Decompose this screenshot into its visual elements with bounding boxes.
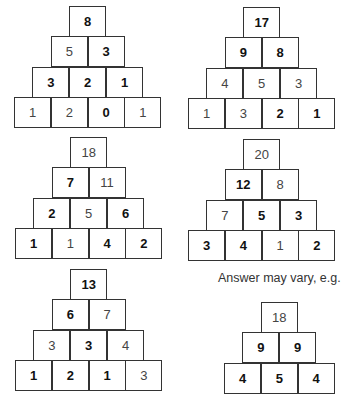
pyramid-cell: 12: [225, 169, 262, 200]
pyramid-cell: 13: [70, 269, 107, 300]
pyramid-cell: 1: [298, 98, 335, 129]
pyramid-cell: 7: [89, 299, 126, 330]
pyramid-cell: 6: [52, 299, 89, 330]
pyramid-cell: 7: [206, 200, 243, 231]
pyramid-cell: 4: [107, 330, 144, 361]
pyramid-cell: 1: [89, 360, 126, 391]
pyramid-cell: 2: [125, 228, 162, 259]
pyramid-cell: 18: [261, 302, 298, 333]
pyramid-cell: 17: [243, 7, 280, 38]
pyramid-cell: 6: [107, 198, 144, 229]
pyramid-cell: 5: [261, 363, 298, 394]
pyramid-cell: 3: [280, 68, 317, 99]
pyramid-cell: 5: [51, 36, 88, 67]
pyramid-cell: 0: [88, 97, 125, 128]
pyramid-cell: 2: [33, 198, 70, 229]
pyramid-cell: 2: [52, 360, 89, 391]
pyramid-cell: 18: [70, 137, 107, 168]
pyramid-cell: 2: [69, 67, 106, 98]
pyramid-cell: 2: [298, 230, 335, 261]
pyramid-cell: 9: [225, 37, 262, 68]
pyramid-cell: 1: [52, 228, 89, 259]
pyramid-cell: 11: [89, 167, 126, 198]
pyramid-cell: 4: [225, 230, 262, 261]
pyramid-cell: 3: [70, 330, 107, 361]
pyramid-cell: 5: [243, 200, 280, 231]
pyramid-cell: 3: [33, 330, 70, 361]
pyramid-cell: 3: [88, 36, 125, 67]
pyramid-cell: 1: [124, 97, 161, 128]
pyramid-cell: 1: [188, 98, 225, 129]
pyramid-cell: 4: [224, 363, 261, 394]
pyramid-cell: 3: [125, 360, 162, 391]
pyramid-cell: 5: [70, 198, 107, 229]
pyramid-cell: 2: [262, 98, 299, 129]
pyramid-cell: 1: [15, 360, 52, 391]
pyramid-cell: 3: [32, 67, 69, 98]
pyramid-cell: 3: [225, 98, 262, 129]
pyramid-cell: 3: [280, 200, 317, 231]
pyramid-cell: 8: [262, 169, 299, 200]
pyramid-cell: 4: [89, 228, 126, 259]
pyramid-cell: 7: [52, 167, 89, 198]
pyramid-cell: 8: [69, 6, 106, 37]
pyramid-cell: 1: [15, 228, 52, 259]
pyramid-cell: 1: [262, 230, 299, 261]
answer-note: Answer may vary, e.g.: [218, 271, 341, 285]
pyramid-cell: 1: [106, 67, 143, 98]
pyramid-cell: 9: [242, 332, 279, 363]
pyramid-cell: 4: [206, 68, 243, 99]
pyramid-cell: 2: [51, 97, 88, 128]
pyramid-cell: 1: [14, 97, 51, 128]
pyramid-cell: 9: [279, 332, 316, 363]
pyramid-cell: 20: [243, 139, 280, 170]
pyramid-cell: 3: [188, 230, 225, 261]
pyramid-cell: 5: [243, 68, 280, 99]
pyramid-cell: 4: [298, 363, 335, 394]
pyramid-cell: 8: [262, 37, 299, 68]
